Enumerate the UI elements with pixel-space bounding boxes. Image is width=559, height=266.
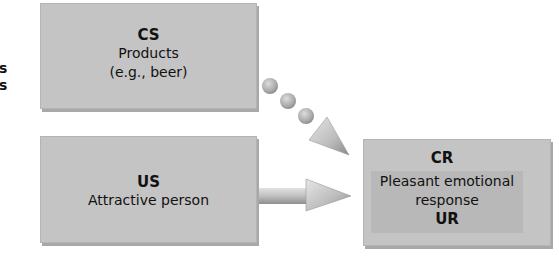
arrow-dot-4 <box>298 108 314 124</box>
dotted-arrowhead-icon <box>309 117 349 155</box>
solid-arrow-us-to-ur <box>256 179 351 211</box>
us-label: US <box>40 173 257 191</box>
ur-label: UR <box>371 210 523 228</box>
cr-label: CR <box>363 149 521 167</box>
cs-label: CS <box>40 26 257 44</box>
cr-ur-box: CR Pleasant emotional response UR <box>363 139 551 246</box>
us-stimulus-text: Attractive person <box>40 191 257 210</box>
response-text-line-1: Pleasant emotional <box>371 172 523 191</box>
us-box: US Attractive person <box>40 136 257 243</box>
dotted-arrow-cs-to-cr <box>241 60 349 155</box>
arrow-dot-2 <box>262 78 278 94</box>
arrow-dot-3 <box>280 93 296 109</box>
cs-box: CS Products (e.g., beer) <box>40 3 257 109</box>
cs-stimulus-text: Products <box>40 44 257 63</box>
response-text-line-2: response <box>371 191 523 210</box>
arrow-shaft <box>256 188 308 204</box>
solid-arrowhead-icon <box>306 179 351 211</box>
cs-example-text: (e.g., beer) <box>40 63 257 82</box>
